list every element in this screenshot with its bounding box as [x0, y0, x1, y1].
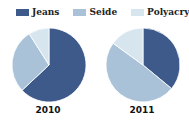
legend-label: Polyacryl [147, 7, 189, 17]
pie-chart-2010 [11, 26, 87, 104]
year-label-2011: 2011 [122, 105, 162, 115]
polyacryl-swatch-icon [131, 9, 144, 16]
chart-legend: Jeans Seide Polyacryl [16, 7, 189, 17]
legend-item-polyacryl: Polyacryl [131, 7, 189, 17]
legend-item-seide: Seide [73, 7, 117, 17]
jeans-swatch-icon [16, 9, 29, 16]
pie-chart-2011 [105, 26, 181, 104]
legend-item-jeans: Jeans [16, 7, 59, 17]
legend-label: Seide [89, 7, 117, 17]
legend-label: Jeans [32, 7, 59, 17]
seide-swatch-icon [73, 9, 86, 16]
year-label-2010: 2010 [28, 105, 68, 115]
